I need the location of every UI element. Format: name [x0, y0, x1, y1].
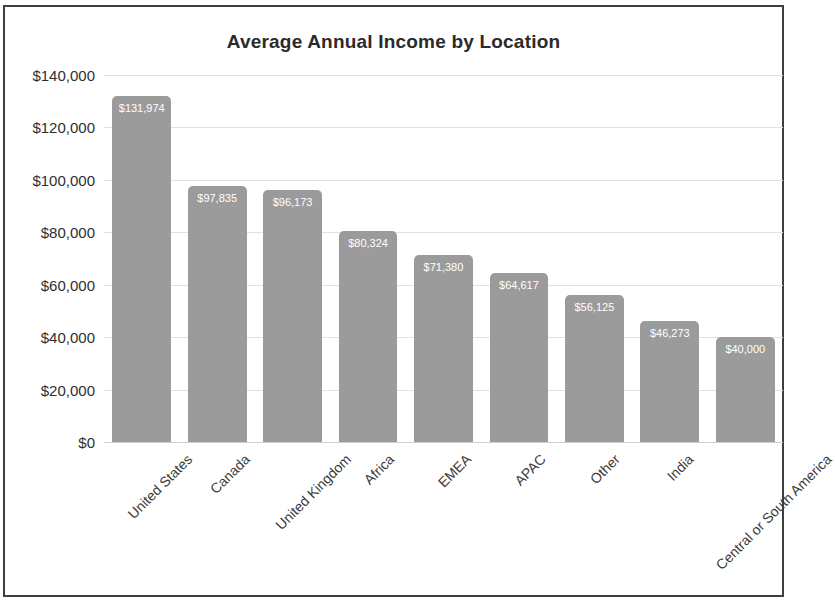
bar[interactable]: $131,974 — [112, 96, 171, 442]
x-axis-category-label: APAC — [511, 451, 549, 489]
x-axis-category-label: EMEA — [435, 451, 474, 490]
y-axis-tick-label: $40,000 — [41, 329, 95, 346]
x-axis-category-label: Africa — [361, 451, 398, 488]
x-axis-category-label: United Kingdom — [272, 451, 354, 533]
bar-group: $46,273India — [632, 75, 707, 442]
x-axis-category-label: India — [664, 451, 697, 484]
bar-value-label: $46,273 — [640, 327, 699, 339]
bar-group: $96,173United Kingdom — [255, 75, 330, 442]
bar-group: $40,000Central or South America — [708, 75, 783, 442]
bar[interactable]: $96,173 — [263, 190, 322, 442]
bar[interactable]: $46,273 — [640, 321, 699, 442]
bar[interactable]: $71,380 — [414, 255, 473, 442]
bar-group: $64,617APAC — [481, 75, 556, 442]
y-axis-tick-label: $100,000 — [32, 171, 95, 188]
y-axis-tick-label: $60,000 — [41, 276, 95, 293]
bar-series: $131,974United States$97,835Canada$96,17… — [104, 75, 783, 442]
x-axis-category-label: Other — [587, 451, 623, 487]
bar-group: $71,380EMEA — [406, 75, 481, 442]
x-axis-category-label: Canada — [207, 451, 253, 497]
plot-area: $140,000$120,000$100,000$80,000$60,000$4… — [104, 75, 783, 442]
bar-group: $56,125Other — [557, 75, 632, 442]
bar[interactable]: $97,835 — [188, 186, 247, 442]
bar-value-label: $80,324 — [339, 237, 398, 249]
bar-value-label: $56,125 — [565, 301, 624, 313]
bar[interactable]: $80,324 — [339, 231, 398, 442]
chart-title: Average Annual Income by Location — [5, 31, 782, 53]
bar-group: $131,974United States — [104, 75, 179, 442]
y-axis-tick-label: $80,000 — [41, 224, 95, 241]
bar-value-label: $97,835 — [188, 192, 247, 204]
bar-value-label: $96,173 — [263, 196, 322, 208]
bar-value-label: $64,617 — [490, 279, 549, 291]
bar[interactable]: $56,125 — [565, 295, 624, 442]
bar-value-label: $40,000 — [716, 343, 775, 355]
bar[interactable]: $40,000 — [716, 337, 775, 442]
chart-frame: Average Annual Income by Location $140,0… — [3, 5, 784, 597]
gridline — [104, 442, 783, 443]
bar-group: $80,324Africa — [330, 75, 405, 442]
y-axis-tick-label: $20,000 — [41, 381, 95, 398]
y-axis-tick-label: $0 — [78, 434, 95, 451]
bar[interactable]: $64,617 — [490, 273, 549, 442]
y-axis-tick-label: $120,000 — [32, 119, 95, 136]
y-axis-tick-label: $140,000 — [32, 67, 95, 84]
bar-group: $97,835Canada — [179, 75, 254, 442]
x-axis-category-label: United States — [124, 451, 195, 522]
bar-value-label: $71,380 — [414, 261, 473, 273]
x-axis-category-label: Central or South America — [713, 451, 835, 573]
bar-value-label: $131,974 — [112, 102, 171, 114]
